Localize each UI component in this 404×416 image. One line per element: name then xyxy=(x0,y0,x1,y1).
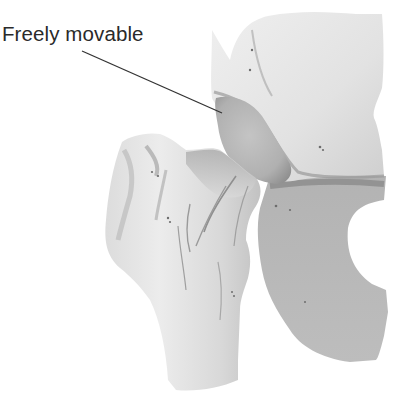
hip-joint-illustration: Freely movable xyxy=(0,0,404,416)
annotation-label-freely-movable: Freely movable xyxy=(2,22,144,46)
ischium-shape xyxy=(258,174,388,362)
leader-line xyxy=(82,51,222,113)
hip-joint-drawing xyxy=(0,0,404,416)
